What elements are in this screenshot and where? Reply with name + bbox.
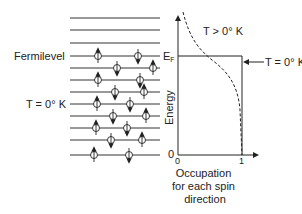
x-axis-label: Occupation for each spin direction	[172, 167, 238, 205]
electron-up-spin	[94, 98, 101, 111]
electron-up-spin	[139, 134, 146, 147]
energy-axis-label: Energy	[163, 90, 175, 125]
electron-up-spin	[150, 62, 157, 75]
electron-up-spin	[95, 74, 102, 87]
electron-down-spin	[112, 85, 119, 98]
electron-up-spin	[91, 149, 98, 162]
cold-curve-label: T = 0° K	[265, 56, 302, 68]
electron-down-spin	[124, 121, 131, 134]
fermi-diagram: Fermilevel T = 0° K EF Energy 0 0 1 T > …	[0, 0, 302, 214]
origin-y-label: 0	[168, 148, 174, 160]
temperature-label: T = 0° K	[26, 98, 67, 110]
x-tick-0: 0	[175, 156, 180, 166]
x-tick-1: 1	[239, 156, 244, 166]
electron-up-spin	[143, 110, 150, 123]
hot-curve-label: T > 0° K	[203, 25, 244, 37]
electron-down-spin	[114, 61, 121, 74]
electron-up-spin	[93, 122, 100, 135]
electron-down-spin	[137, 73, 144, 86]
fermi-energy-label: EF	[163, 50, 175, 63]
electron-down-spin	[108, 133, 115, 146]
fermi-level-label: Fermilevel	[14, 50, 65, 62]
electron-down-spin	[135, 49, 142, 62]
electron-down-spin	[127, 97, 134, 110]
electron-up-spin	[141, 86, 148, 99]
electron-down-spin	[126, 148, 133, 161]
electron-up-spin	[95, 50, 102, 63]
electrons	[91, 49, 157, 162]
step-curve-t0	[178, 56, 242, 155]
electron-down-spin	[110, 109, 117, 122]
